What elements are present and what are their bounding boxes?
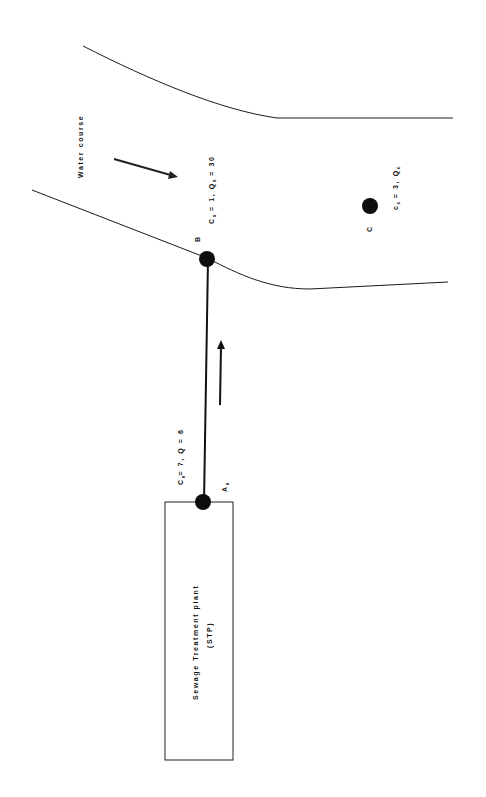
point-b-label: B <box>194 235 201 242</box>
downstream-c-value: = 3, <box>392 176 399 201</box>
node-a <box>195 494 211 510</box>
effluent-c: C <box>177 478 184 485</box>
discharge-pipe <box>204 259 208 502</box>
stp-label-line2: (STP) <box>206 622 213 648</box>
point-a-label: Ae <box>221 483 230 492</box>
point-a-name: A <box>221 485 228 492</box>
node-c <box>362 198 378 214</box>
point-c-name: C <box>366 225 373 232</box>
stp-label-line1: Sewage Treatment plant <box>192 585 199 700</box>
upstream-c: C <box>208 217 215 224</box>
downstream-q-sub: c <box>395 167 401 170</box>
downstream-q: Q <box>392 169 399 176</box>
pipe-flow-arrow-icon <box>217 340 225 405</box>
lower-river-bank <box>32 190 448 289</box>
downstream-label: cc = 3, Qc <box>392 167 401 210</box>
stp-box <box>165 502 233 760</box>
point-b-name: B <box>194 235 201 242</box>
upper-river-bank <box>83 46 453 118</box>
upstream-c-value: = 1, <box>208 189 215 214</box>
downstream-c: c <box>392 205 399 211</box>
flow-direction-arrow-icon <box>114 159 178 179</box>
effluent-q: Q <box>177 447 184 454</box>
effluent-c-value: = 7, <box>177 454 184 476</box>
stp-name-text: Sewage Treatment plant <box>192 585 199 700</box>
upstream-q-sub: s <box>211 179 217 182</box>
stp-abbrev-text: (STP) <box>206 622 213 648</box>
point-c-label: C <box>366 225 373 232</box>
node-b <box>199 251 215 267</box>
diagram-canvas <box>0 0 486 797</box>
downstream-c-sub: c <box>395 202 401 205</box>
water-course-label: Water course <box>77 115 84 178</box>
point-a-sub: e <box>224 483 230 486</box>
upstream-q-value: = 30 <box>208 156 215 180</box>
water-course-text: Water course <box>77 115 84 178</box>
effluent-q-value: = 6 <box>177 428 184 446</box>
upstream-q: Q <box>208 182 215 189</box>
effluent-label: Ce= 7, Q = 6 <box>177 428 186 485</box>
upstream-label: Cs = 1, Qs = 30 <box>208 156 217 224</box>
